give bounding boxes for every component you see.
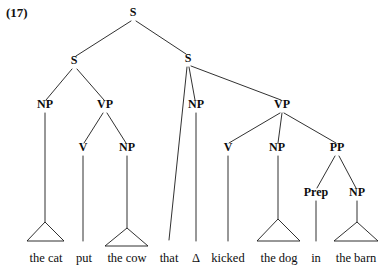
leaf-the-cat: the cat bbox=[30, 251, 63, 265]
leaf-delta: Δ bbox=[192, 251, 200, 265]
tree-branch bbox=[46, 69, 72, 100]
tree-nodes-group: SSSNPVPVNPNPVPVNPPPPrepNP bbox=[37, 5, 365, 199]
leaf-the-barn: the barn bbox=[336, 251, 377, 265]
tree-branch bbox=[84, 113, 103, 143]
tree-node-np: NP bbox=[188, 97, 204, 111]
figure-canvas: (17) SSSNPVPVNPNPVPVNPPPPrepNP the catpu… bbox=[0, 0, 389, 271]
leaf-triangle bbox=[27, 222, 64, 241]
tree-branch bbox=[169, 67, 187, 240]
tree-node-vp: VP bbox=[274, 97, 290, 111]
tree-branch bbox=[339, 156, 356, 188]
leaf-triangle bbox=[334, 222, 378, 241]
tree-leaves-group: the catputthe cowthatΔkickedthe doginthe… bbox=[30, 251, 378, 265]
tree-node-np: NP bbox=[269, 140, 285, 154]
leaf-the-dog: the dog bbox=[260, 251, 298, 265]
tree-branches-group bbox=[45, 21, 357, 241]
tree-node-s: S bbox=[71, 53, 78, 67]
syntax-tree-svg: SSSNPVPVNPNPVPVNPPPPrepNP the catputthe … bbox=[0, 0, 389, 271]
leaf-triangle bbox=[257, 219, 300, 241]
leaf-in: in bbox=[311, 251, 321, 265]
tree-node-prep: Prep bbox=[304, 185, 329, 199]
tree-branch bbox=[317, 156, 335, 188]
tree-node-v: V bbox=[224, 140, 233, 154]
tree-triangles-group bbox=[27, 219, 378, 246]
leaf-the-cow: the cow bbox=[107, 251, 146, 265]
tree-branch bbox=[278, 113, 282, 143]
tree-node-s: S bbox=[130, 5, 137, 19]
tree-branch bbox=[189, 67, 195, 100]
tree-node-np: NP bbox=[119, 140, 135, 154]
tree-branch bbox=[284, 113, 336, 143]
leaf-triangle bbox=[105, 228, 148, 246]
tree-branch bbox=[76, 21, 131, 56]
tree-node-pp: PP bbox=[330, 140, 345, 154]
tree-node-s: S bbox=[185, 51, 192, 65]
leaf-put: put bbox=[76, 251, 93, 265]
tree-node-np: NP bbox=[37, 97, 53, 111]
tree-branch bbox=[77, 69, 104, 100]
tree-branch bbox=[191, 66, 281, 100]
tree-branch bbox=[229, 113, 280, 143]
leaf-that: that bbox=[160, 251, 179, 265]
leaf-kicked: kicked bbox=[211, 251, 245, 265]
tree-node-vp: VP bbox=[97, 97, 113, 111]
tree-node-np: NP bbox=[349, 185, 365, 199]
tree-branch bbox=[107, 113, 126, 143]
tree-branch bbox=[136, 21, 186, 54]
tree-node-v: V bbox=[79, 140, 88, 154]
